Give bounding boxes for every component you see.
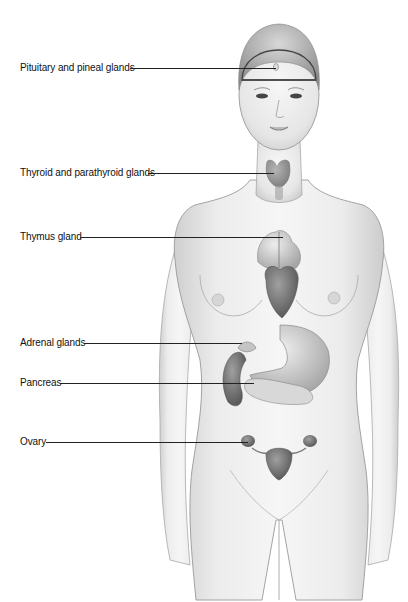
label-ovary: Ovary [20, 436, 46, 447]
leader-line-thymus [80, 237, 283, 238]
label-pancreas: Pancreas [20, 377, 61, 388]
label-thymus: Thymus gland [20, 231, 82, 242]
leader-line-adrenal [84, 343, 242, 344]
leader-line-pancreas [60, 383, 254, 384]
ovary [241, 435, 255, 447]
leader-line-pituitary [130, 68, 276, 69]
pituitary-gland [274, 64, 279, 71]
leader-line-ovary [46, 442, 248, 443]
body-illustration [0, 0, 408, 602]
endocrine-diagram: Pituitary and pineal glands Thyroid and … [0, 0, 408, 602]
label-thyroid: Thyroid and parathyroid glands [20, 167, 155, 178]
head [239, 24, 320, 150]
label-adrenal: Adrenal glands [20, 337, 85, 348]
leader-line-thyroid [148, 173, 274, 174]
label-pituitary: Pituitary and pineal glands [20, 62, 135, 73]
